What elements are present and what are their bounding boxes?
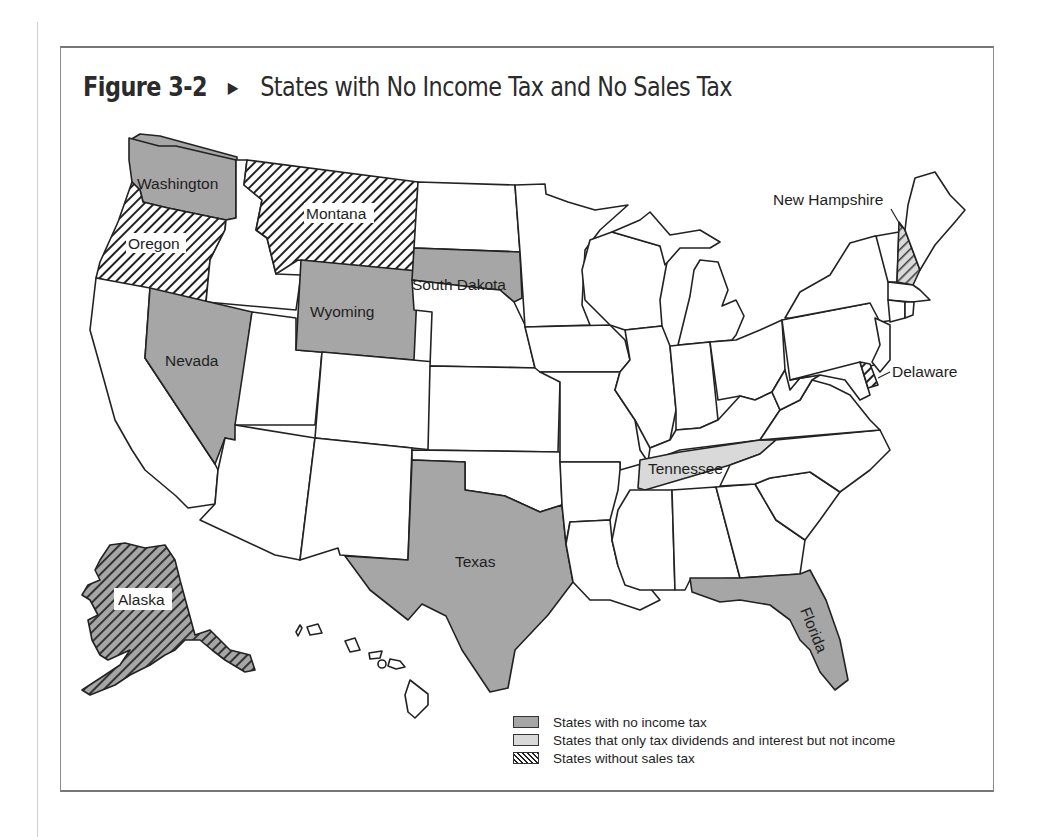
us-map: Washington Oregon Montana Wyoming South … <box>0 0 1042 837</box>
swatch-gray-icon <box>513 716 539 728</box>
state-michigan-lower <box>678 260 744 345</box>
swatch-light-gray-icon <box>513 734 539 746</box>
swatch-hatched-icon <box>513 752 539 764</box>
state-colorado <box>315 352 435 450</box>
legend-item-dividends-interest: States that only tax dividends and inter… <box>513 731 895 749</box>
label-nevada: Nevada <box>165 352 219 369</box>
label-alaska: Alaska <box>114 588 172 610</box>
state-new-york <box>785 236 895 322</box>
svg-text:Washington: Washington <box>137 175 218 192</box>
label-wyoming: Wyoming <box>310 303 374 320</box>
svg-text:Texas: Texas <box>455 553 496 570</box>
svg-text:Delaware: Delaware <box>892 363 957 380</box>
state-hawaii-1 <box>296 625 302 636</box>
state-maine <box>905 172 965 270</box>
state-north-dakota <box>414 182 520 252</box>
state-wisconsin <box>582 232 667 330</box>
state-hawaii-5 <box>378 660 386 668</box>
state-massachusetts <box>888 282 930 302</box>
svg-text:Tennessee: Tennessee <box>648 460 723 477</box>
svg-text:Nevada: Nevada <box>165 352 219 369</box>
state-indiana <box>670 342 718 430</box>
svg-text:South Dakota: South Dakota <box>412 276 506 293</box>
label-montana: Montana <box>304 203 374 223</box>
svg-text:Alaska: Alaska <box>118 591 165 608</box>
svg-text:Oregon: Oregon <box>128 235 180 252</box>
state-alaska <box>82 543 255 695</box>
state-hawaii-4 <box>369 651 382 659</box>
label-oregon: Oregon <box>126 233 186 253</box>
label-texas: Texas <box>455 553 496 570</box>
state-hawaii-2 <box>307 624 322 635</box>
legend-label: States without sales tax <box>553 751 695 766</box>
state-hawaii-7 <box>405 680 428 718</box>
state-new-mexico <box>300 438 412 560</box>
legend-item-no-income-tax: States with no income tax <box>513 713 895 731</box>
legend-label: States with no income tax <box>553 715 707 730</box>
legend-label: States that only tax dividends and inter… <box>553 733 895 748</box>
state-hawaii-3 <box>345 638 360 652</box>
svg-text:New Hampshire: New Hampshire <box>773 191 883 208</box>
svg-text:Wyoming: Wyoming <box>310 303 374 320</box>
state-florida <box>690 570 848 690</box>
label-tennessee: Tennessee <box>648 460 723 477</box>
label-south-dakota: South Dakota <box>412 276 506 293</box>
legend-item-no-sales-tax: States without sales tax <box>513 749 895 767</box>
label-new-hampshire: New Hampshire <box>773 191 902 228</box>
state-mississippi <box>612 490 675 590</box>
state-connecticut <box>888 300 905 322</box>
state-kansas <box>428 366 560 452</box>
label-washington: Washington <box>136 173 230 193</box>
state-hawaii-6 <box>388 659 405 669</box>
svg-text:Montana: Montana <box>306 205 367 222</box>
map-legend: States with no income tax States that on… <box>513 713 895 767</box>
state-rhode-island <box>905 302 914 318</box>
label-delaware: Delaware <box>878 363 957 380</box>
state-iowa <box>525 325 630 372</box>
